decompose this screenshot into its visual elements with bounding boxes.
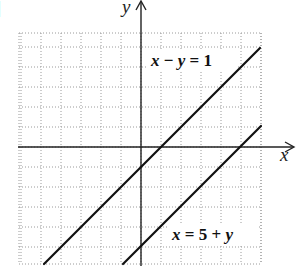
coordinate-plane-figure: ] x y x − y = 1 x = 5 + y <box>0 0 299 270</box>
equation-label-x-minus-y-equals-1: x − y = 1 <box>150 51 212 70</box>
equation-label-x-equals-5-plus-y: x = 5 + y <box>171 225 233 244</box>
y-axis <box>136 1 146 266</box>
bracket-fragment: ] <box>0 0 1 18</box>
x-axis-label: x <box>279 144 289 165</box>
y-axis-label: y <box>120 0 131 17</box>
